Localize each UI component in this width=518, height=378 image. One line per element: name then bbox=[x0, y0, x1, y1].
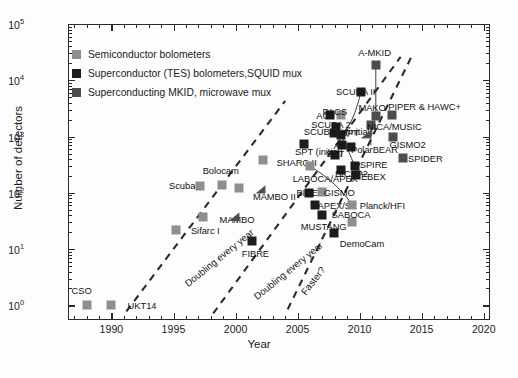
legend-item-tes[interactable]: Superconductor (TES) bolometers,SQUID mu… bbox=[72, 65, 302, 81]
x-tick-label-1990: 1990 bbox=[100, 323, 124, 335]
data-label-sifarc-i: Sifarc I bbox=[191, 224, 220, 235]
data-point-piper-hawc-[interactable] bbox=[387, 111, 396, 120]
y-tick-right-4000 bbox=[486, 103, 490, 104]
x-tick-2011 bbox=[372, 316, 373, 320]
data-point-scuba[interactable] bbox=[195, 181, 204, 190]
y-tick-right-7000 bbox=[486, 89, 490, 90]
data-point-sharc-ii[interactable] bbox=[258, 156, 267, 165]
x-tick-top-2000 bbox=[236, 24, 237, 31]
y-tick-right-6000 bbox=[486, 93, 490, 94]
y-tick-90 bbox=[68, 195, 72, 196]
x-tick-top-1993 bbox=[149, 24, 150, 28]
data-point-ukt14[interactable] bbox=[107, 301, 116, 310]
y-tick-label-10^0: 100 bbox=[8, 299, 24, 313]
data-label-planck-hfi: Planck/HFI bbox=[360, 199, 405, 210]
y-tick-right-8 bbox=[486, 255, 490, 256]
y-tick-right-70000 bbox=[486, 33, 490, 34]
x-tick-top-2003 bbox=[273, 24, 274, 28]
y-tick-1000 bbox=[68, 137, 75, 138]
y-tick-right-1 bbox=[483, 305, 490, 306]
legend-item-semiconductor[interactable]: Semiconductor bolometers bbox=[72, 46, 302, 62]
data-label-bolocam: Bolocam bbox=[203, 164, 239, 175]
x-tick-1997 bbox=[198, 316, 199, 320]
x-tick-2002 bbox=[260, 316, 261, 320]
x-tick-label-2000: 2000 bbox=[224, 323, 248, 335]
data-label-scuba-ii: SCUBA II bbox=[336, 86, 375, 97]
legend-item-mkid[interactable]: Superconducting MKID, microwave mux bbox=[72, 84, 302, 100]
data-label-a-mkid: A-MKID bbox=[358, 46, 391, 57]
x-tick-2020 bbox=[484, 313, 485, 320]
x-axis-title: Year bbox=[0, 338, 518, 350]
y-tick-right-200 bbox=[486, 176, 490, 177]
y-tick-right-100 bbox=[483, 193, 490, 194]
x-tick-top-1990 bbox=[111, 24, 112, 31]
data-label-scuba: Scuba bbox=[169, 179, 195, 190]
y-tick-right-4 bbox=[486, 272, 490, 273]
legend-label-semiconductor: Semiconductor bolometers bbox=[88, 49, 210, 60]
y-tick-right-1000 bbox=[483, 137, 490, 138]
y-tick-500 bbox=[68, 154, 72, 155]
y-tick-60 bbox=[68, 205, 72, 206]
x-tick-2016 bbox=[434, 316, 435, 320]
y-tick-100000 bbox=[68, 24, 75, 25]
x-tick-2015 bbox=[422, 313, 423, 320]
y-tick-20 bbox=[68, 232, 72, 233]
y-tick-right-80000 bbox=[486, 30, 490, 31]
data-point-mambo-ii[interactable] bbox=[235, 184, 244, 193]
y-tick-label-10^1: 101 bbox=[8, 242, 24, 256]
y-tick-right-3000 bbox=[486, 110, 490, 111]
data-point-mustang[interactable] bbox=[318, 211, 327, 220]
x-tick-label-2020: 2020 bbox=[472, 323, 496, 335]
y-tick-right-9 bbox=[486, 252, 490, 253]
x-tick-2014 bbox=[409, 316, 410, 320]
y-tick-70000 bbox=[68, 33, 72, 34]
x-tick-2003 bbox=[273, 316, 274, 320]
data-point-planck-hfi[interactable] bbox=[348, 200, 357, 209]
chart-legend: Semiconductor bolometersSuperconductor (… bbox=[72, 46, 302, 103]
x-tick-top-2001 bbox=[248, 24, 249, 28]
legend-label-mkid: Superconducting MKID, microwave mux bbox=[88, 87, 271, 98]
y-tick-90000 bbox=[68, 27, 72, 28]
y-tick-9 bbox=[68, 252, 72, 253]
data-point-bolocam[interactable] bbox=[217, 180, 226, 189]
data-label-saboca: SABOCA bbox=[332, 209, 371, 220]
y-tick-label-10^5: 105 bbox=[8, 17, 24, 31]
y-tick-right-20000 bbox=[486, 63, 490, 64]
data-point-spire[interactable] bbox=[350, 162, 359, 171]
data-point-democam[interactable] bbox=[329, 229, 338, 238]
y-tick-right-3 bbox=[486, 279, 490, 280]
y-tick-3000 bbox=[68, 110, 72, 111]
y-tick-right-5000 bbox=[486, 97, 490, 98]
y-tick-5 bbox=[68, 266, 72, 267]
y-tick-300 bbox=[68, 166, 72, 167]
data-point-spider[interactable] bbox=[399, 153, 408, 162]
data-point-sifarc-i[interactable] bbox=[172, 225, 181, 234]
y-tick-label-10^2: 102 bbox=[8, 186, 24, 200]
data-point-ebex[interactable] bbox=[352, 170, 361, 179]
y-tick-right-2 bbox=[486, 288, 490, 289]
data-point-mambo[interactable] bbox=[199, 213, 208, 222]
x-tick-top-1997 bbox=[198, 24, 199, 28]
y-tick-right-100000 bbox=[483, 24, 490, 25]
legend-swatch-semiconductor bbox=[72, 50, 81, 59]
y-tick-3 bbox=[68, 279, 72, 280]
y-tick-right-60000 bbox=[486, 37, 490, 38]
data-point-a-mkid[interactable] bbox=[371, 60, 380, 69]
y-tick-10 bbox=[68, 249, 75, 250]
y-tick-right-40000 bbox=[486, 46, 490, 47]
x-tick-2001 bbox=[248, 316, 249, 320]
data-label-spider: SPIDER bbox=[408, 152, 443, 163]
data-label-piper-hawc-: PIPER & HAWC+ bbox=[388, 100, 461, 111]
y-tick-80 bbox=[68, 198, 72, 199]
y-tick-right-300 bbox=[486, 166, 490, 167]
data-point-cso[interactable] bbox=[82, 301, 91, 310]
x-tick-1989 bbox=[99, 316, 100, 320]
data-label-mako: MAKO bbox=[358, 101, 385, 112]
data-point-laboca-apex[interactable] bbox=[306, 162, 315, 171]
y-tick-right-80 bbox=[486, 198, 490, 199]
data-label-ukt14: UKT14 bbox=[128, 300, 157, 311]
x-tick-top-1988 bbox=[87, 24, 88, 28]
x-tick-top-2012 bbox=[385, 24, 386, 28]
y-tick-right-6 bbox=[486, 262, 490, 263]
y-tick-right-2000 bbox=[486, 120, 490, 121]
